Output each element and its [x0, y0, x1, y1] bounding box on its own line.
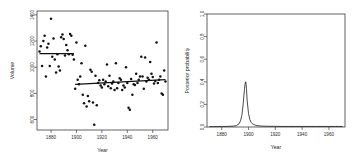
scatter-points-group: [38, 18, 166, 126]
scatter-point: [150, 73, 153, 76]
scatter-point: [80, 62, 83, 64]
scatter-point: [52, 37, 55, 40]
scatter-point: [61, 33, 64, 36]
scatter-point: [113, 89, 116, 92]
scatter-plot-canvas: 18801900192019401960600800100012001400Vo…: [0, 0, 180, 166]
scatter-point: [110, 87, 113, 90]
x-axis-tick-label: 1920: [97, 135, 108, 140]
scatter-point: [157, 82, 160, 85]
scatter-point: [60, 36, 63, 39]
y-axis-tick-label: 1200: [30, 36, 35, 47]
scatter-point: [125, 66, 128, 69]
x-axis-tick-label: 1900: [243, 132, 254, 137]
scatter-point: [51, 56, 54, 59]
x-axis-title: Year: [97, 147, 108, 153]
scatter-point: [41, 65, 44, 68]
scatter-point: [108, 74, 111, 77]
scatter-point: [64, 54, 67, 57]
y-axis-title: Posterior probability: [184, 47, 190, 93]
scatter-point: [90, 71, 93, 74]
y-axis-tick-label: 0.0: [200, 123, 205, 130]
scatter-point: [62, 38, 65, 41]
scatter-point: [70, 35, 73, 38]
scatter-point: [135, 73, 138, 76]
scatter-point: [106, 63, 109, 66]
y-axis-tick-label: 0.4: [200, 78, 205, 85]
scatter-point: [102, 78, 105, 81]
scatter-point: [163, 69, 166, 72]
scatter-point: [143, 88, 146, 91]
scatter-point: [129, 108, 132, 111]
scatter-point: [141, 75, 144, 78]
scatter-point: [159, 75, 162, 78]
scatter-point: [121, 89, 124, 92]
scatter-point: [92, 101, 95, 104]
scatter-point: [74, 88, 77, 91]
posterior-probability-curve: [210, 82, 343, 127]
scatter-point: [151, 76, 154, 79]
scatter-point: [47, 42, 50, 45]
scatter-point: [43, 35, 46, 38]
scatter-point: [96, 104, 99, 107]
scatter-point: [73, 58, 76, 61]
y-axis-tick-label: 0.2: [200, 101, 205, 108]
x-axis-tick-label: 1880: [46, 135, 57, 140]
scatter-point: [98, 79, 101, 82]
scatter-point: [107, 85, 110, 88]
x-axis-tick-label: 1900: [71, 135, 82, 140]
scatter-point: [136, 82, 139, 85]
x-axis-tick-label: 1940: [122, 135, 133, 140]
scatter-point: [101, 86, 104, 89]
scatter-point: [59, 69, 62, 72]
scatter-point: [116, 87, 119, 90]
scatter-point: [38, 50, 41, 53]
scatter-point: [93, 124, 96, 127]
x-axis-tick-label: 1920: [270, 132, 281, 137]
scatter-point: [40, 45, 43, 48]
scatter-point: [155, 41, 158, 44]
scatter-point: [55, 71, 58, 74]
scatter-point: [54, 58, 57, 61]
y-axis-tick-label: 0.6: [200, 56, 205, 63]
x-axis-title: Year: [271, 144, 282, 150]
scatter-point: [164, 80, 167, 83]
plot-frame: [207, 14, 345, 127]
y-axis-tick-label: 1400: [30, 9, 35, 20]
scatter-point: [48, 65, 51, 68]
x-axis-tick-label: 1940: [297, 132, 308, 137]
scatter-point: [153, 82, 156, 85]
x-axis-tick-label: 1960: [324, 132, 335, 137]
scatter-point: [57, 65, 60, 68]
plot-frame: [37, 11, 168, 130]
scatter-point: [134, 84, 137, 87]
scatter-point: [50, 18, 53, 21]
y-axis-title: Volume: [9, 62, 15, 79]
scatter-point: [115, 62, 118, 64]
scatter-point: [85, 105, 88, 108]
scatter-point: [139, 75, 142, 78]
y-axis-tick-label: 0.8: [200, 33, 205, 40]
scatter-point: [124, 86, 127, 89]
scatter-point: [83, 102, 86, 105]
scatter-point: [162, 93, 165, 96]
scatter-point: [45, 75, 48, 78]
scatter-point: [84, 44, 87, 47]
posterior-probability-panel: 188019001920194019600.00.20.40.60.81.0Po…: [180, 0, 359, 166]
scatter-point: [140, 56, 143, 59]
scatter-point: [87, 95, 90, 98]
posterior-plot-canvas: 188019001920194019600.00.20.40.60.81.0Po…: [180, 0, 359, 166]
scatter-point: [46, 46, 49, 49]
scatter-point: [66, 49, 69, 52]
scatter-point: [79, 75, 82, 78]
scatter-point: [42, 40, 45, 43]
y-axis-tick-label: 1.0: [200, 10, 205, 17]
scatter-point: [76, 78, 79, 81]
y-axis-tick-label: 800: [30, 89, 35, 97]
scatter-point: [65, 44, 68, 47]
scatter-point: [149, 61, 152, 64]
scatter-panel-volume-vs-year: 18801900192019401960600800100012001400Vo…: [0, 0, 180, 166]
scatter-point: [75, 41, 78, 44]
y-axis-tick-label: 1000: [30, 62, 35, 73]
y-axis-tick-label: 600: [30, 115, 35, 123]
scatter-point: [82, 93, 85, 96]
